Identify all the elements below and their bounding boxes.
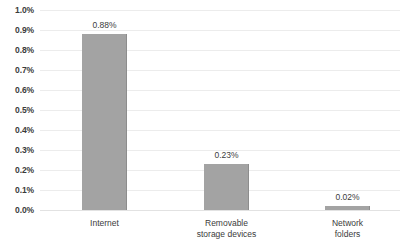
x-axis-category-label: Network folders [332, 218, 363, 240]
gridline [40, 10, 400, 11]
y-axis-tick-label: 0.5% [0, 106, 34, 115]
y-axis-tick-label: 0.2% [0, 166, 34, 175]
y-axis-tick-label: 0.4% [0, 126, 34, 135]
y-axis-tick-label: 0.1% [0, 186, 34, 195]
y-axis-tick-label: 0.8% [0, 46, 34, 55]
plot-area [40, 10, 400, 210]
gridline [40, 30, 400, 31]
x-axis-category-label: Internet [90, 218, 119, 229]
bar[interactable] [204, 164, 249, 210]
bar-value-label: 0.23% [214, 151, 238, 160]
y-axis-tick-label: 0.9% [0, 26, 34, 35]
y-axis-tick-label: 0.7% [0, 66, 34, 75]
x-axis-category-label: Removable storage devices [197, 218, 257, 240]
axis-baseline [40, 210, 400, 211]
bar[interactable] [325, 206, 370, 210]
y-axis-tick-label: 0.3% [0, 146, 34, 155]
bar-value-label: 0.02% [335, 193, 359, 202]
bar-value-label: 0.88% [92, 21, 116, 30]
bar[interactable] [82, 34, 127, 210]
y-axis-tick-label: 0.6% [0, 86, 34, 95]
y-axis-tick-label: 1.0% [0, 6, 34, 15]
y-axis-tick-label: 0.0% [0, 206, 34, 215]
bar-chart: 1.0%0.9%0.8%0.7%0.6%0.5%0.4%0.3%0.2%0.1%… [0, 0, 409, 250]
